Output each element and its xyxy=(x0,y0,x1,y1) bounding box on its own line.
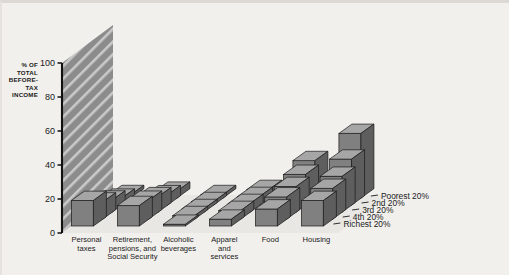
category-label-line: Food xyxy=(262,235,279,244)
bar-front-face[interactable] xyxy=(255,209,277,226)
depth-axis-label: Richest 20% xyxy=(343,219,391,229)
bar-chart-3d: 020406080100% OFTOTALBEFORE-TAXINCOMEPoo… xyxy=(0,0,509,275)
y-axis-tick-label: 80 xyxy=(45,92,55,102)
y-axis-title-line: % OF xyxy=(21,61,38,68)
bar[interactable] xyxy=(301,191,336,226)
category-label-line: Social Security xyxy=(107,252,157,261)
bar-front-face[interactable] xyxy=(209,219,231,226)
y-axis-tick-label: 20 xyxy=(45,194,55,204)
y-axis-title-line: BEFORE- xyxy=(9,76,38,83)
category-label-line: taxes xyxy=(77,244,95,253)
bar-front-face[interactable] xyxy=(117,206,139,226)
chart-figure: 020406080100% OFTOTALBEFORE-TAXINCOMEPoo… xyxy=(0,0,509,275)
y-axis-tick-label: 0 xyxy=(50,228,55,238)
y-axis-tick-label: 60 xyxy=(45,126,55,136)
y-axis-tick-label: 40 xyxy=(45,160,55,170)
category-label-line: Housing xyxy=(302,235,330,244)
y-axis-tick-label: 100 xyxy=(40,58,55,68)
category-label-line: services xyxy=(210,252,238,261)
y-axis-title-line: TAX xyxy=(25,84,38,91)
y-axis-title-line: TOTAL xyxy=(17,69,38,76)
category-label-line: beverages xyxy=(161,244,197,253)
bar[interactable] xyxy=(71,191,106,226)
bar-front-face[interactable] xyxy=(301,201,323,227)
y-axis-title-line: INCOME xyxy=(12,91,38,98)
bar-front-face[interactable] xyxy=(71,201,93,227)
